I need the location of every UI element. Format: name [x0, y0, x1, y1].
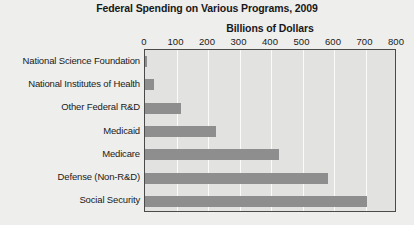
bar: [145, 56, 147, 67]
category-label: National Science Foundation: [0, 55, 140, 66]
x-axis-title: Billions of Dollars: [144, 22, 396, 34]
bar: [145, 79, 154, 90]
x-axis-tick-labels: 0100200300400500600700800: [144, 36, 396, 48]
x-tick-label: 0: [141, 36, 146, 47]
y-axis-category-labels: National Science FoundationNational Inst…: [0, 49, 140, 212]
plot-area: [144, 49, 396, 212]
category-label: Medicare: [0, 148, 140, 159]
bar: [145, 196, 367, 207]
bar-row: [145, 143, 395, 166]
bar-row: [145, 166, 395, 189]
x-tick-label: 600: [325, 36, 341, 47]
x-tick-label: 700: [357, 36, 373, 47]
bar-row: [145, 50, 395, 73]
x-tick-label: 100: [168, 36, 184, 47]
category-label: Social Security: [0, 194, 140, 205]
bar-row: [145, 97, 395, 120]
chart-title: Federal Spending on Various Programs, 20…: [0, 2, 414, 14]
bar-row: [145, 120, 395, 143]
category-label: Other Federal R&D: [0, 101, 140, 112]
bar: [145, 149, 279, 160]
x-tick-label: 200: [199, 36, 215, 47]
x-tick-label: 500: [294, 36, 310, 47]
bar: [145, 103, 181, 114]
bar-row: [145, 190, 395, 213]
x-tick-label: 400: [262, 36, 278, 47]
x-tick-label: 800: [388, 36, 404, 47]
category-label: Defense (Non-R&D): [0, 171, 140, 182]
category-label: Medicaid: [0, 125, 140, 136]
bar-chart-figure: Federal Spending on Various Programs, 20…: [0, 0, 414, 225]
x-tick-label: 300: [231, 36, 247, 47]
bars-layer: [145, 50, 395, 211]
bar-row: [145, 73, 395, 96]
category-label: National Institutes of Health: [0, 78, 140, 89]
bar: [145, 126, 216, 137]
bar: [145, 173, 328, 184]
